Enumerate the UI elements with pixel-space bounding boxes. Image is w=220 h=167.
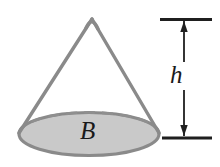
base-area-label: B [80,118,95,143]
cone-diagram-svg [0,0,220,167]
cone-figure: h B [0,0,220,167]
height-label: h [170,62,183,87]
